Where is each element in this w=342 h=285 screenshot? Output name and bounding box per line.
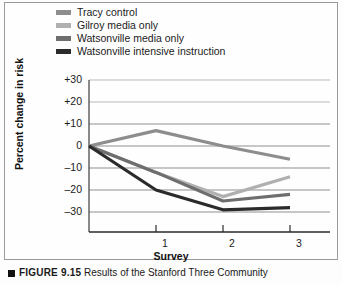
y-tick-label: –20 xyxy=(48,183,82,195)
legend-item-label: Gilroy media only xyxy=(77,19,158,32)
legend-swatch-icon xyxy=(56,36,71,41)
legend-swatch-icon xyxy=(56,49,71,54)
caption-body: Results of the Stanford Three Community xyxy=(84,267,268,278)
legend-item: Tracy control xyxy=(56,6,326,19)
y-axis-title: Percent change in risk xyxy=(13,49,25,179)
y-tick-label: +10 xyxy=(48,117,82,129)
legend-item: Gilroy media only xyxy=(56,19,326,32)
y-tick-label: –30 xyxy=(48,205,82,217)
legend-item-label: Tracy control xyxy=(77,6,137,19)
y-tick-label: +20 xyxy=(48,95,82,107)
chart-legend: Tracy control Gilroy media only Watsonvi… xyxy=(56,6,326,58)
x-tick-label: 2 xyxy=(222,237,242,249)
legend-item-label: Watsonville intensive instruction xyxy=(77,45,225,58)
legend-swatch-icon xyxy=(56,23,71,28)
x-tick-label: 3 xyxy=(289,237,309,249)
legend-item: Watsonville intensive instruction xyxy=(56,45,326,58)
x-tick-label: 1 xyxy=(155,237,175,249)
legend-swatch-icon xyxy=(56,10,71,15)
y-tick-label: 0 xyxy=(48,139,82,151)
figure-container: Tracy control Gilroy media only Watsonvi… xyxy=(0,0,342,285)
figure-caption: FIGURE 9.15 Results of the Stanford Thre… xyxy=(8,266,338,279)
y-tick-label: +30 xyxy=(48,73,82,85)
caption-bullet-icon xyxy=(8,270,15,277)
legend-item-label: Watsonville media only xyxy=(77,32,184,45)
x-axis-title: Survey xyxy=(0,250,342,262)
legend-item: Watsonville media only xyxy=(56,32,326,45)
y-tick-label: –10 xyxy=(48,161,82,173)
caption-figure-number: FIGURE 9.15 xyxy=(19,267,81,278)
